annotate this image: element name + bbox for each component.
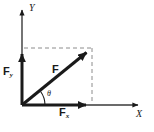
angle-arc <box>41 92 45 106</box>
diagram-canvas <box>0 0 154 132</box>
resultant-force-vector <box>22 53 87 106</box>
vector-diagram: Y X Fy Fx F θ <box>0 0 154 132</box>
force-y-label-subscript: y <box>10 71 13 79</box>
force-y-label: Fy <box>3 66 13 77</box>
resultant-force-label: F <box>52 64 59 75</box>
force-x-label-subscript: x <box>66 112 70 120</box>
force-x-label: Fx <box>59 107 69 118</box>
force-y-label-base: F <box>3 65 10 77</box>
force-x-label-base: F <box>59 106 66 118</box>
y-axis-label: Y <box>29 3 35 13</box>
angle-label: θ <box>47 90 51 98</box>
x-axis-label: X <box>136 109 142 119</box>
